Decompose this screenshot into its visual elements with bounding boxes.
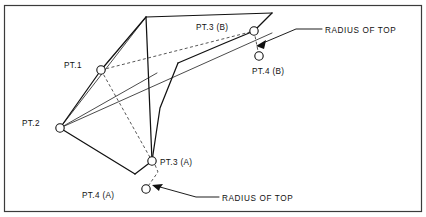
label-pt4a: PT.4 (A) (82, 191, 114, 200)
label-pt3a: PT.3 (A) (160, 158, 192, 167)
label-pt1: PT.1 (64, 61, 82, 70)
edge-pt1-to-pt2 (60, 70, 101, 128)
callout-leaders (152, 29, 322, 197)
node-marker-pt3a[interactable] (148, 157, 156, 165)
node-marker-pt1[interactable] (97, 66, 105, 74)
label-pt2: PT.2 (22, 119, 40, 128)
edge-pt2-to-pt3b-chain (60, 73, 157, 128)
dashed-pt1-to-pt3a (101, 70, 152, 161)
edge-mid-right-to-pt3a (152, 63, 178, 161)
solid-body-outline (60, 13, 272, 174)
leader-line-top (263, 29, 322, 43)
callout-label-radius-of-top-lower: RADIUS OF TOP (222, 194, 293, 203)
point-labels: PT.1 PT.2 PT.3 (A) PT.4 (A) PT.3 (B) PT.… (22, 23, 284, 200)
edge-pt1-to-apex (101, 17, 146, 70)
callout-label-radius-of-top-upper: RADIUS OF TOP (325, 26, 396, 35)
edge-apex-to-far-right (146, 13, 272, 17)
diagram-frame (5, 6, 422, 212)
label-pt3b: PT.3 (B) (196, 23, 228, 32)
edge-pt2-to-right-top (60, 33, 272, 128)
node-marker-pt2[interactable] (56, 124, 64, 132)
diagram-svg: PT.1 PT.2 PT.3 (A) PT.4 (A) PT.3 (B) PT.… (0, 0, 426, 217)
node-marker-pt4a[interactable] (142, 185, 150, 193)
leader-line-bottom (160, 187, 219, 197)
node-marker-pt3b[interactable] (250, 27, 258, 35)
node-marker-pt4b[interactable] (255, 52, 263, 60)
label-pt4b: PT.4 (B) (252, 67, 284, 76)
diagram-canvas: PT.1 PT.2 PT.3 (A) PT.4 (A) PT.3 (B) PT.… (0, 0, 426, 217)
construction-edges (60, 17, 272, 128)
callout-labels: RADIUS OF TOP RADIUS OF TOP (222, 26, 396, 203)
edge-pt2-to-bottom-vertex (60, 128, 135, 174)
